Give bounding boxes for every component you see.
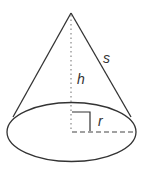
height-label: h xyxy=(77,71,85,87)
radius-label: r xyxy=(98,113,104,129)
left-slant-edge xyxy=(13,13,71,117)
right-angle-marker xyxy=(72,112,90,131)
right-slant-edge xyxy=(71,13,131,117)
cone-diagram: h s r xyxy=(0,0,143,169)
slant-label: s xyxy=(103,50,110,66)
cone-figure: h s r xyxy=(0,0,143,169)
